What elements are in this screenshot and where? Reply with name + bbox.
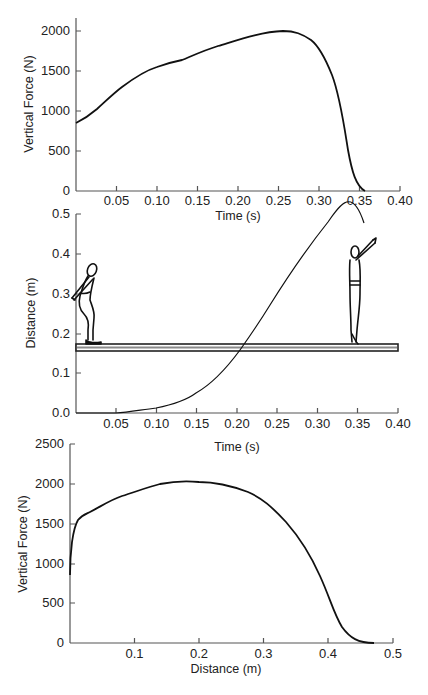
- chart-force-vs-time: 0 500 1000 1500 2000 0.05 0.10 0.15 0.20…: [22, 18, 413, 223]
- x-tick-label: 0.3: [254, 646, 272, 661]
- x-axis-title: Time (s): [214, 440, 259, 454]
- y-axis-title: Vertical Force (N): [16, 495, 30, 592]
- distance-time-curve-end: [240, 223, 364, 350]
- y-tick-label: 0.0: [52, 405, 70, 420]
- y-axis-title: Distance (m): [24, 278, 38, 349]
- y-tick-label: 1500: [35, 516, 64, 531]
- y-tick-label: 1500: [41, 63, 70, 78]
- y-tick-label: 1000: [41, 103, 70, 118]
- x-tick-label: 0.20: [224, 416, 249, 431]
- x-tick-label: 0.10: [144, 416, 169, 431]
- x-tick-label: 0.35: [347, 193, 372, 208]
- x-ticks: 0.05 0.10 0.15 0.20 0.25 0.30 0.35 0.40: [104, 186, 413, 208]
- x-tick-label: 0.30: [305, 416, 330, 431]
- x-tick-label: 0.40: [387, 193, 412, 208]
- x-axis-title: Distance (m): [191, 662, 262, 676]
- force-platform: [76, 344, 398, 351]
- x-tick-label: 0.5: [384, 646, 402, 661]
- y-tick-label: 0.4: [52, 246, 70, 261]
- force-distance-curve: [70, 481, 374, 643]
- y-tick-label: 2500: [35, 436, 64, 451]
- y-ticks: 0 500 1000 1500 2000 2500: [35, 436, 75, 650]
- force-time-curve: [76, 31, 365, 191]
- x-tick-label: 0.20: [225, 193, 250, 208]
- y-tick-label: 0.1: [52, 365, 70, 380]
- y-tick-label: 1000: [35, 556, 64, 571]
- y-tick-label: 2000: [41, 23, 70, 38]
- x-tick-label: 0.15: [184, 416, 209, 431]
- x-tick-label: 0.30: [306, 193, 331, 208]
- extended-jumper-icon: [350, 238, 376, 344]
- x-tick-label: 0.40: [385, 416, 410, 431]
- y-tick-label: 0.5: [52, 206, 70, 221]
- x-tick-label: 0.4: [319, 646, 337, 661]
- x-tick-label: 0.35: [345, 416, 370, 431]
- y-tick-label: 2000: [35, 476, 64, 491]
- y-tick-label: 0: [63, 183, 70, 198]
- y-tick-label: 500: [42, 595, 64, 610]
- chart-distance-vs-time: 0.0 0.1 0.2 0.3 0.4 0.5 0.05 0.10 0.15 0…: [24, 202, 411, 454]
- x-tick-label: 0.1: [125, 646, 143, 661]
- y-axis-title: Vertical Force (N): [22, 55, 36, 152]
- chart-force-vs-distance: 0 500 1000 1500 2000 2500 0.1 0.2 0.3 0.…: [16, 436, 402, 676]
- distance-time-curve: [76, 202, 364, 413]
- x-tick-label: 0.05: [103, 416, 128, 431]
- y-ticks: 0 500 1000 1500 2000: [41, 23, 81, 198]
- x-tick-label: 0.10: [144, 193, 169, 208]
- y-tick-label: 500: [48, 143, 70, 158]
- x-tick-label: 0.2: [190, 646, 208, 661]
- x-tick-label: 0.05: [104, 193, 129, 208]
- figure-canvas: 0 500 1000 1500 2000 0.05 0.10 0.15 0.20…: [0, 0, 428, 695]
- x-tick-label: 0.15: [185, 193, 210, 208]
- y-tick-label: 0: [57, 635, 64, 650]
- x-tick-label: 0.25: [266, 193, 291, 208]
- y-ticks: 0.0 0.1 0.2 0.3 0.4 0.5: [52, 206, 81, 420]
- x-ticks: 0.05 0.10 0.15 0.20 0.25 0.30 0.35 0.40: [103, 408, 410, 431]
- x-tick-label: 0.25: [264, 416, 289, 431]
- y-tick-label: 0.2: [52, 326, 70, 341]
- y-tick-label: 0.3: [52, 286, 70, 301]
- x-axis-title: Time (s): [215, 209, 260, 223]
